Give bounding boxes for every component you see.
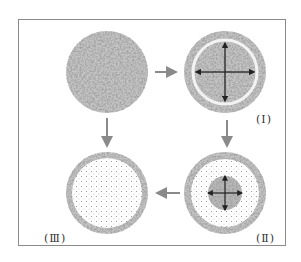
node-stage-2 — [184, 152, 266, 234]
node-stage-1 — [184, 31, 266, 113]
node-start — [66, 31, 148, 113]
label-stage-1: (Ⅰ) — [256, 113, 272, 126]
label-stage-3: (Ⅲ) — [44, 232, 66, 245]
diagram-canvas — [0, 0, 301, 262]
label-stage-2: (Ⅱ) — [256, 232, 275, 245]
node-stage-3 — [66, 152, 148, 234]
